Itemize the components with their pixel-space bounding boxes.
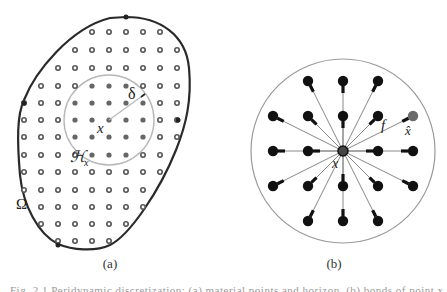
force-arrow	[312, 178, 317, 183]
material-node	[175, 48, 179, 52]
material-node	[175, 135, 179, 139]
force-arrow	[373, 210, 376, 216]
neighbor-node	[373, 181, 383, 191]
figure-caption-text: Fig. 2.1 Peridynamic discretization: (a)…	[0, 286, 447, 292]
center-x-label-b: x	[331, 156, 339, 171]
force-arrow	[310, 85, 313, 91]
neighbor-node	[373, 146, 383, 156]
horizon-node	[123, 134, 128, 139]
material-node	[73, 48, 77, 52]
material-node	[90, 170, 94, 174]
material-node	[124, 30, 128, 34]
neighbor-node	[303, 111, 313, 121]
center-x-label: x	[96, 120, 104, 136]
material-node	[90, 188, 94, 192]
material-node	[124, 188, 128, 192]
material-node	[73, 205, 77, 209]
horizon-node	[89, 100, 94, 105]
neighbor-node	[373, 216, 383, 226]
material-node	[39, 170, 43, 174]
material-node	[73, 170, 77, 174]
horizon-node	[123, 152, 128, 157]
material-node	[22, 153, 26, 157]
material-node	[39, 118, 43, 122]
neighbor-node-xhat	[408, 111, 418, 121]
material-node	[107, 170, 111, 174]
force-arrow	[370, 178, 375, 183]
material-node	[124, 66, 128, 70]
material-node	[39, 205, 43, 209]
horizon-node	[140, 100, 145, 105]
force-arrow	[402, 181, 408, 184]
material-node	[141, 170, 145, 174]
material-node	[141, 84, 145, 88]
material-node	[56, 222, 60, 226]
center-node	[338, 146, 348, 156]
horizon-node	[89, 83, 94, 88]
force-arrow	[402, 118, 408, 121]
material-node	[158, 30, 162, 34]
neighbor-node	[268, 111, 278, 121]
material-node	[90, 222, 94, 226]
neighbor-node	[303, 146, 313, 156]
bond-f-label: f	[381, 117, 387, 133]
material-node	[107, 48, 111, 52]
material-node	[56, 170, 60, 174]
horizon-node	[72, 100, 77, 105]
material-node	[73, 222, 77, 226]
material-node	[39, 84, 43, 88]
material-node	[22, 135, 26, 139]
force-arrow	[277, 118, 283, 121]
material-node	[90, 239, 94, 243]
material-node	[22, 170, 26, 174]
material-node	[39, 153, 43, 157]
material-node	[73, 188, 77, 192]
neighbor-node	[268, 146, 278, 156]
neighbor-node	[373, 76, 383, 86]
material-node	[124, 170, 128, 174]
material-node	[73, 66, 77, 70]
force-arrow	[373, 85, 376, 91]
material-node	[158, 48, 162, 52]
radius-delta-label: δ	[128, 85, 136, 102]
material-node	[107, 239, 111, 243]
material-node	[73, 239, 77, 243]
neighbor-node	[338, 216, 348, 226]
horizon-node	[140, 117, 145, 122]
material-node	[141, 48, 145, 52]
material-node	[158, 153, 162, 157]
force-arrow	[312, 120, 317, 125]
caption-b: (b)	[326, 256, 341, 271]
horizon-node	[123, 117, 128, 122]
neighborhood-subscript: x	[83, 157, 89, 168]
material-node	[107, 205, 111, 209]
horizon-node	[106, 134, 111, 139]
material-node	[141, 66, 145, 70]
panel-a: x δ ℋ x Ω (a)	[16, 15, 190, 272]
neighbor-node	[303, 181, 313, 191]
material-node	[39, 135, 43, 139]
neighbor-xhat-label: x̂	[404, 123, 411, 138]
material-node	[56, 118, 60, 122]
material-node	[141, 188, 145, 192]
material-node	[107, 66, 111, 70]
material-node	[90, 30, 94, 34]
material-node	[158, 170, 162, 174]
material-node	[56, 101, 60, 105]
force-arrow	[277, 181, 283, 184]
material-node	[39, 101, 43, 105]
figure-canvas: x δ ℋ x Ω (a) x f x̂ (b)	[0, 0, 447, 292]
material-node	[56, 153, 60, 157]
force-arrow	[370, 120, 375, 125]
material-node	[56, 84, 60, 88]
horizon-node	[72, 117, 77, 122]
material-node	[90, 66, 94, 70]
material-node	[90, 48, 94, 52]
figure-caption-cut: Fig. 2.1 Peridynamic discretization: (a)…	[0, 286, 447, 292]
radius-line	[109, 94, 145, 120]
material-node	[141, 205, 145, 209]
material-node	[158, 135, 162, 139]
material-node	[56, 66, 60, 70]
force-arrow	[310, 210, 313, 216]
material-node	[90, 205, 94, 209]
